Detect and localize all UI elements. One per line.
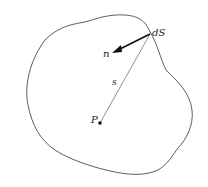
label-p: P [90,114,98,125]
diagram-canvas: dS n s P [0,0,208,187]
label-s: s [112,77,117,87]
region-boundary [27,15,193,175]
label-ds: dS [152,27,165,38]
point-p [98,121,102,125]
arrowhead-icon [112,45,122,53]
label-n: n [103,48,109,59]
